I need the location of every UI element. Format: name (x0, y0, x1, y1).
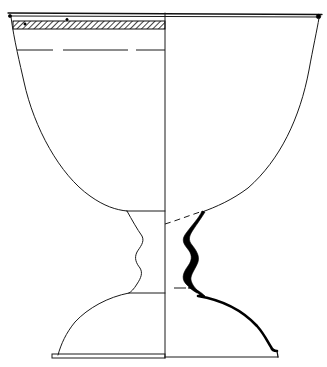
base-left-profile (58, 293, 129, 355)
stem-right-section (165, 211, 205, 296)
bowl-left-profile (11, 17, 127, 211)
goblet-profile-drawing (0, 0, 327, 367)
bowl-right-profile (202, 18, 319, 212)
base-right-section (198, 296, 277, 351)
hatched-band (13, 18, 165, 29)
stem-left (127, 211, 165, 293)
